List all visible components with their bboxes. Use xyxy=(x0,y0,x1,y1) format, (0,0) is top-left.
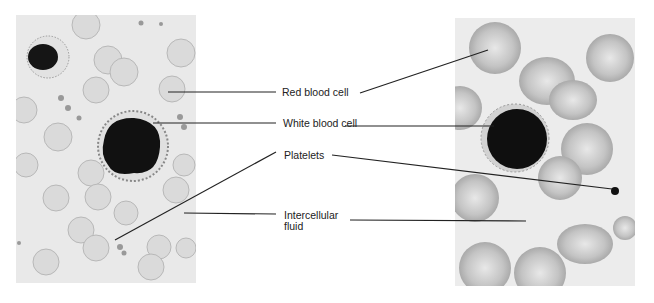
label-intercellular-fluid: Intercellular fluid xyxy=(284,210,338,232)
label-red-blood-cell: Red blood cell xyxy=(282,87,349,98)
label-intercellular-line2: fluid xyxy=(284,221,338,232)
leader-lines xyxy=(0,0,654,303)
label-white-blood-cell: White blood cell xyxy=(283,118,357,129)
label-platelets: Platelets xyxy=(284,150,324,161)
